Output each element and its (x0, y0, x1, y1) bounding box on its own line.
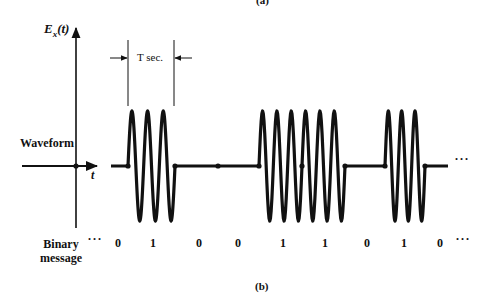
bit-boundary-dot (172, 163, 177, 168)
bit-boundary-dot (422, 163, 427, 168)
bit-label: 0 (235, 236, 241, 251)
bit-label: 0 (437, 236, 443, 251)
caption-b: (b) (255, 280, 268, 292)
waveform-label: Waveform (20, 136, 74, 151)
bit-label: 1 (401, 236, 407, 251)
waveform-ellipsis: ··· (454, 152, 469, 167)
bit-label: 1 (322, 236, 328, 251)
bit-label: 0 (364, 236, 370, 251)
bit-boundary-dot (215, 163, 220, 168)
bit-boundary-dot (342, 163, 347, 168)
bit-boundary-dot (256, 163, 261, 168)
leading-ellipsis: ··· (87, 232, 102, 247)
bit-boundary-dot (299, 163, 304, 168)
y-axis-label: Ex(t) (44, 21, 69, 39)
origin-dot (73, 163, 78, 168)
bit-label: 1 (280, 236, 286, 251)
bit-boundary-dot (382, 163, 387, 168)
binary-label-line1: Binary (40, 237, 82, 251)
bit-label: 0 (196, 236, 202, 251)
waveform-path (111, 111, 448, 221)
x-axis-label: t (91, 168, 94, 183)
bit-boundary-dot (125, 163, 130, 168)
trailing-ellipsis: ··· (455, 232, 470, 247)
bit-label: 1 (150, 236, 156, 251)
binary-label-line2: message (40, 251, 82, 265)
period-label: T sec. (137, 51, 163, 63)
bit-label: 0 (115, 236, 121, 251)
binary-message-label: Binary message (40, 237, 82, 265)
